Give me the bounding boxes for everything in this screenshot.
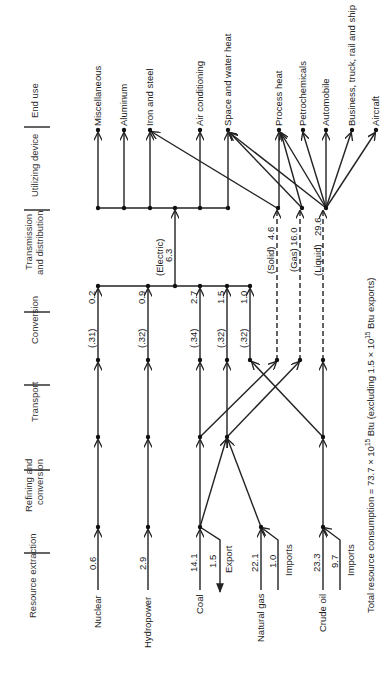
resource-natural-gas: Natural gas: [255, 593, 266, 642]
svg-text:Transmission: Transmission: [23, 214, 34, 270]
solid-label: (Solid): [265, 247, 276, 274]
solid-value: 4.6: [265, 227, 276, 240]
end-use-aircraft: Aircraft: [370, 96, 381, 126]
svg-text:0.9: 0.9: [136, 291, 147, 304]
header-resource-extraction: Resource extraction: [27, 534, 38, 618]
header-end-use: End use: [29, 83, 40, 118]
svg-text:2.7: 2.7: [188, 291, 199, 304]
svg-text:conversion: conversion: [34, 459, 45, 505]
coal-export-value: 1.5: [207, 555, 218, 568]
end-use-petrochemicals: Petrochemicals: [297, 61, 308, 126]
oil-imports-label: Imports: [345, 544, 356, 576]
total-consumption-note: Total resource consumption = 73.7 × 1015…: [364, 278, 376, 613]
end-use-automobile: Automobile: [320, 78, 331, 126]
resource-natural-gas-value: 22.1: [249, 554, 260, 573]
svg-text:and distribution: and distribution: [34, 211, 45, 275]
svg-text:Refining and: Refining and: [23, 459, 34, 512]
svg-text:(.34): (.34): [188, 328, 199, 348]
gas-value: 16.0: [288, 228, 299, 247]
energy-flow-diagram: Resource extraction Refining and convers…: [0, 0, 391, 677]
flow-lines: [98, 132, 375, 592]
oil-imports-value: 9.7: [329, 555, 340, 568]
resource-nuclear: Nuclear: [92, 595, 103, 628]
resource-hydropower: Hydropower: [142, 597, 153, 648]
resource-coal-value: 14.1: [188, 554, 199, 573]
end-use-process-heat: Process heat: [273, 70, 284, 126]
end-use-labels: Miscellaneous Aluminum Iron and steel Ai…: [92, 5, 381, 126]
gas-imports-value: 1.0: [267, 555, 278, 568]
header-conversion: Conversion: [29, 296, 40, 344]
end-use-space-and-water-heat: Space and water heat: [222, 33, 233, 126]
stage-headers: Resource extraction Refining and convers…: [23, 83, 50, 618]
end-use-business-truck-rail-ship: Business, truck, rail and ship: [346, 5, 357, 126]
end-use-air-conditioning: Air conditioning: [194, 61, 205, 126]
resource-crude-oil-value: 23.3: [311, 554, 322, 573]
conversion-labels: (.31) 0.2 (.32) 0.9 (.34) 2.7 (.32) 1.5 …: [86, 291, 249, 348]
end-use-aluminum: Aluminum: [118, 84, 129, 126]
resource-labels: Nuclear 0.6 Hydropower 2.9 Coal 14.1 1.5…: [87, 544, 356, 648]
end-use-miscellaneous: Miscellaneous: [92, 66, 103, 126]
coal-export-label: Export: [223, 545, 234, 573]
end-use-iron-and-steel: Iron and steel: [144, 68, 155, 126]
resource-coal: Coal: [194, 594, 205, 614]
header-transport: Transport: [29, 381, 40, 422]
svg-text:(.32): (.32): [215, 328, 226, 348]
header-utilizing-device: Utilizing device: [29, 134, 40, 197]
resource-hydropower-value: 2.9: [137, 557, 148, 570]
svg-text:(.32): (.32): [136, 328, 147, 348]
svg-text:(.31): (.31): [86, 328, 97, 348]
svg-text:1.5: 1.5: [215, 291, 226, 304]
header-transmission: Transmission and distribution: [23, 211, 45, 275]
svg-text:0.2: 0.2: [86, 291, 97, 304]
electric-value: 6.3: [163, 249, 174, 262]
svg-text:(.32): (.32): [238, 328, 249, 348]
distribution-labels: (Electric) 6.3 (Solid) 4.6 (Gas) 16.0 (L…: [154, 218, 323, 277]
svg-text:1.0: 1.0: [238, 291, 249, 304]
gas-label: (Gas): [288, 248, 299, 272]
liquid-value: 29.6: [312, 218, 323, 237]
resource-crude-oil: Crude oil: [317, 594, 328, 632]
header-refining: Refining and conversion: [23, 459, 45, 512]
liquid-label: (Liquid): [312, 244, 323, 276]
gas-imports-label: Imports: [283, 544, 294, 576]
resource-nuclear-value: 0.6: [87, 557, 98, 570]
